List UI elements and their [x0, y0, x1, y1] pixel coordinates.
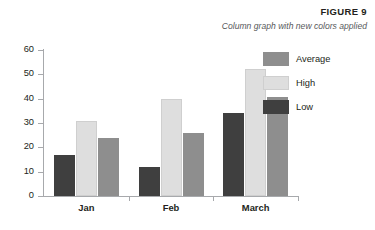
column-chart: 6050403020100 JanFebMarch: [0, 0, 375, 230]
bar-jan-low: [54, 155, 75, 196]
y-axis-tick: [38, 147, 43, 148]
legend-swatch-high: [263, 76, 289, 90]
x-axis-line: [43, 196, 299, 197]
bar-feb-high: [161, 99, 182, 196]
x-axis-separator-tick: [298, 197, 299, 201]
y-axis-tick: [38, 74, 43, 75]
y-axis-tick-label: 20: [12, 142, 34, 151]
x-axis-separator-tick: [129, 197, 130, 201]
legend-label-high: High: [296, 77, 315, 89]
bar-jan-average: [98, 138, 119, 196]
plot-area: [44, 50, 298, 196]
legend-swatch-low: [263, 100, 289, 114]
bar-feb-low: [139, 167, 160, 196]
legend-label-low: Low: [296, 101, 313, 113]
y-axis-tick: [38, 99, 43, 100]
y-axis-tick-label: 50: [12, 69, 34, 78]
y-axis-tick: [38, 196, 43, 197]
bar-jan-high: [76, 121, 97, 196]
bar-march-low: [223, 113, 244, 196]
x-axis-label-feb: Feb: [141, 202, 201, 213]
y-axis-tick: [38, 123, 43, 124]
legend-label-average: Average: [296, 53, 330, 65]
y-axis-tick-label: 30: [12, 118, 34, 127]
y-axis-tick-label: 0: [12, 191, 34, 200]
y-axis-tick-label: 60: [12, 45, 34, 54]
x-axis-separator-tick: [213, 197, 214, 201]
y-axis-tick: [38, 172, 43, 173]
y-axis-tick: [38, 50, 43, 51]
x-axis-label-jan: Jan: [56, 202, 116, 213]
legend-swatch-average: [263, 52, 289, 66]
bar-feb-average: [183, 133, 204, 196]
y-axis-tick-label: 40: [12, 94, 34, 103]
x-axis-label-march: March: [226, 202, 286, 213]
y-axis-tick-label: 10: [12, 167, 34, 176]
